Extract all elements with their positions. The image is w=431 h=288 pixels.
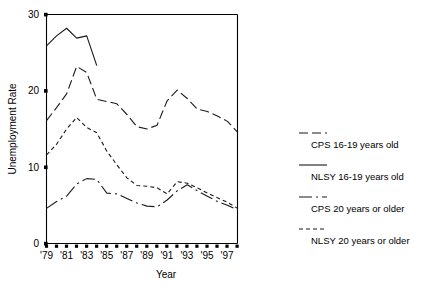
x-tick-1998 (236, 245, 239, 248)
chart-legend: CPS 16-19 years old NLSY 16-19 years old… (299, 133, 410, 246)
y-tick-30 (44, 13, 48, 17)
x-tick-1995 (205, 245, 208, 248)
x-tick-label-1987: '87 (120, 250, 133, 261)
x-tick-1993 (185, 245, 188, 248)
x-tick-1983 (85, 245, 88, 248)
x-tick-1987 (125, 245, 128, 248)
x-tick-label-1989: '89 (140, 250, 153, 261)
series-path-cps-16-19 (47, 66, 238, 132)
series-paths (47, 28, 238, 210)
y-tick-label-10: 10 (28, 162, 40, 173)
y-tick-10 (44, 166, 48, 170)
x-tick-label-1997: '97 (220, 250, 233, 261)
x-tick-label-1995: '95 (200, 250, 213, 261)
x-tick-1992 (175, 245, 178, 248)
legend-label-nlsy-20-plus: NLSY 20 years or older (311, 235, 410, 246)
x-tick-1981 (65, 245, 68, 248)
x-tick-1979 (45, 245, 48, 248)
y-tick-marks (44, 13, 48, 246)
legend-item-cps-20-plus[interactable]: CPS 20 years or older (299, 197, 404, 214)
y-tick-label-30: 30 (28, 9, 40, 20)
legend-item-nlsy-16-19[interactable]: NLSY 16-19 years old (299, 165, 404, 182)
x-tick-label-1985: '85 (100, 250, 113, 261)
x-tick-1991 (165, 245, 168, 248)
x-tick-1997 (225, 245, 228, 248)
x-tick-label-1979: '79 (40, 250, 53, 261)
unemployment-rate-line-chart: 30 20 10 0 (0, 0, 431, 288)
x-axis-title: Year (156, 269, 177, 280)
series-path-nlsy-16-19 (47, 28, 97, 65)
x-tick-1996 (215, 245, 218, 248)
y-tick-labels: 30 20 10 0 (28, 9, 40, 249)
x-tick-marks (45, 245, 239, 248)
x-tick-label-1981: '81 (60, 250, 73, 261)
x-tick-label-1983: '83 (80, 250, 93, 261)
legend-item-cps-16-19[interactable]: CPS 16-19 years old (299, 133, 399, 150)
x-tick-1984 (95, 245, 98, 248)
y-tick-label-20: 20 (28, 85, 40, 96)
x-tick-1990 (155, 245, 158, 248)
y-tick-label-0: 0 (33, 238, 39, 249)
x-tick-label-1993: '93 (180, 250, 193, 261)
chart-figure: 30 20 10 0 (0, 0, 431, 288)
x-tick-1986 (115, 245, 118, 248)
x-tick-1994 (195, 245, 198, 248)
series-path-nlsy-20-plus (47, 118, 238, 209)
x-tick-1982 (75, 245, 78, 248)
x-tick-1989 (145, 245, 148, 248)
legend-label-cps-16-19: CPS 16-19 years old (311, 139, 399, 150)
x-tick-1980 (55, 245, 58, 248)
series-path-cps-20-plus (47, 179, 238, 210)
plot-axes (47, 15, 238, 244)
y-tick-20 (44, 89, 48, 93)
x-tick-1985 (105, 245, 108, 248)
legend-label-nlsy-16-19: NLSY 16-19 years old (311, 171, 404, 182)
x-tick-labels: '79 '81 '83 '85 '87 '89 '91 '93 '95 '97 (40, 250, 234, 261)
legend-item-nlsy-20-plus[interactable]: NLSY 20 years or older (299, 229, 410, 246)
y-axis-title: Unemployment Rate (7, 83, 18, 175)
legend-label-cps-20-plus: CPS 20 years or older (311, 203, 404, 214)
x-tick-1988 (135, 245, 138, 248)
x-tick-label-1991: '91 (160, 250, 173, 261)
